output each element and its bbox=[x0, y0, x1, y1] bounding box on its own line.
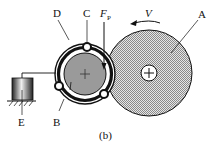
label-c: C bbox=[83, 7, 90, 19]
caption: (b) bbox=[99, 129, 112, 142]
leader-d bbox=[58, 20, 69, 40]
label-b: B bbox=[53, 116, 60, 128]
roller-b bbox=[55, 82, 63, 90]
roller-assembly bbox=[55, 43, 115, 104]
label-force: F bbox=[99, 7, 107, 19]
damper-e bbox=[7, 73, 56, 115]
diagram-canvas: D C F P V A E B (b) bbox=[0, 0, 218, 149]
label-a: A bbox=[198, 8, 206, 20]
label-velocity: V bbox=[145, 7, 153, 19]
roller-bottom bbox=[100, 90, 108, 98]
velocity-arrow bbox=[130, 20, 160, 26]
label-e: E bbox=[18, 116, 25, 128]
leader-b bbox=[59, 99, 64, 111]
roller-c bbox=[83, 43, 91, 51]
label-force-sub: P bbox=[107, 14, 111, 22]
label-d: D bbox=[53, 7, 61, 19]
